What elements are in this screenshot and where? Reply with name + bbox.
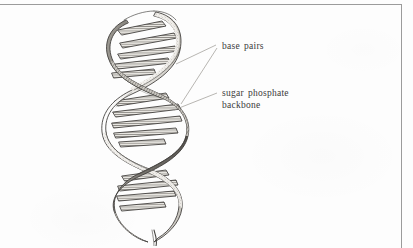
- annotation-sugar-phosphate: sugar phosphate backbone: [222, 87, 289, 112]
- annotation-base-pairs: base pairs: [222, 40, 264, 52]
- right-vertical-rule: [401, 4, 402, 248]
- dna-double-helix-drawing: [96, 2, 208, 246]
- figure-page: base pairs sugar phosphate backbone: [0, 0, 413, 248]
